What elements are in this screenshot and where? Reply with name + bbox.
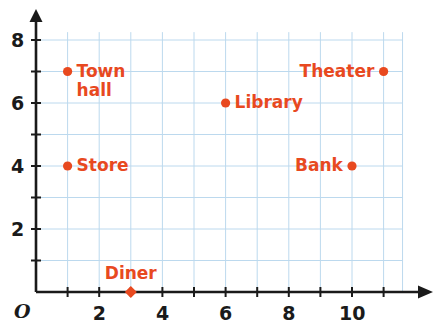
point-label-bank: Bank	[295, 156, 343, 175]
x-axis-tick-label: 6	[219, 304, 232, 323]
x-axis-tick-label: 10	[339, 304, 365, 323]
x-axis-tick-label: 4	[156, 304, 169, 323]
y-axis-tick-label: 6	[11, 94, 24, 113]
scatter-plot-canvas	[0, 0, 438, 335]
y-axis-tick-label: 8	[11, 31, 24, 50]
data-point-marker[interactable]	[125, 286, 137, 298]
y-axis-arrowhead	[30, 9, 43, 22]
point-label-library: Library	[235, 93, 303, 112]
point-label-store: Store	[77, 156, 129, 175]
coordinate-plane-figure: 2468102468OTown hallStoreLibraryTheaterB…	[0, 0, 438, 335]
y-axis-tick-label: 2	[11, 220, 24, 239]
data-point-marker[interactable]	[379, 67, 388, 76]
data-point-marker[interactable]	[63, 161, 72, 170]
point-label-diner: Diner	[105, 264, 157, 283]
x-axis-tick-label: 8	[282, 304, 295, 323]
x-axis-arrowhead	[418, 286, 433, 299]
origin-label: O	[14, 302, 31, 321]
point-label-theater: Theater	[300, 62, 375, 81]
data-point-marker[interactable]	[221, 98, 230, 107]
x-axis-tick-label: 2	[93, 304, 106, 323]
data-point-marker[interactable]	[63, 67, 72, 76]
y-axis-tick-label: 4	[11, 157, 24, 176]
data-point-marker[interactable]	[347, 161, 356, 170]
point-label-town-hall: Town hall	[77, 62, 126, 100]
